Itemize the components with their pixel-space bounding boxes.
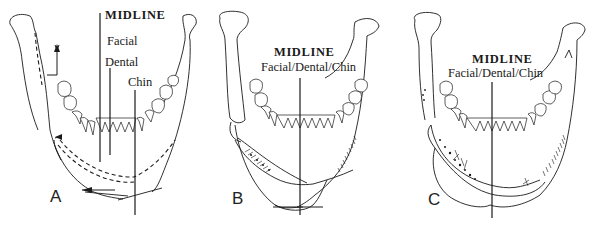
midline-label-a: MIDLINE xyxy=(105,8,165,23)
panel-a: MIDLINE Facial Dental Chin A xyxy=(0,0,200,225)
facial-label: Facial xyxy=(107,34,138,49)
mandible-a-drawing xyxy=(0,0,200,225)
panel-letter-c: C xyxy=(428,190,440,210)
panel-letter-a: A xyxy=(50,187,61,207)
midline-label-b: MIDLINE xyxy=(274,45,334,60)
panel-letter-b: B xyxy=(232,189,243,209)
dental-label: Dental xyxy=(105,55,138,70)
combined-label-c: Facial/Dental/Chin xyxy=(448,66,543,81)
panel-b: MIDLINE Facial/Dental/Chin B xyxy=(195,0,395,225)
mandible-b-drawing xyxy=(195,0,395,225)
panel-c: MIDLINE Facial/Dental/Chin C xyxy=(395,0,595,225)
chin-label: Chin xyxy=(128,75,152,90)
midline-label-c: MIDLINE xyxy=(472,52,532,67)
mandible-c-drawing xyxy=(395,0,595,225)
combined-label-b: Facial/Dental/Chin xyxy=(261,60,356,75)
